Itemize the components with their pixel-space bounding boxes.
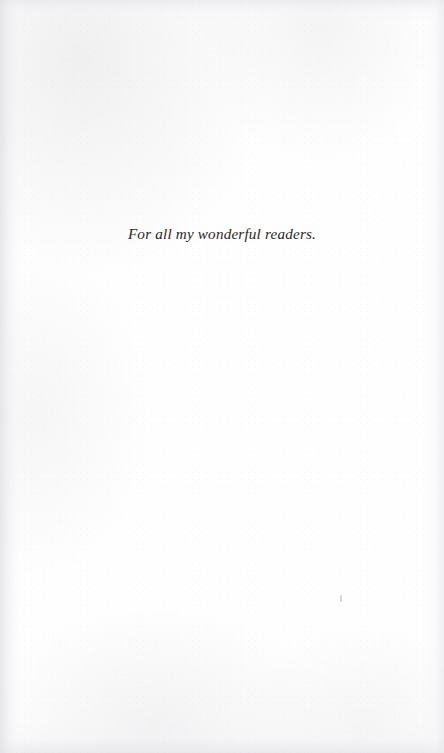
dedication-text: For all my wonderful readers. [128,224,316,244]
scan-speck-artifact [340,595,342,602]
scan-edge-shadow-right [422,0,444,753]
scan-edge-shadow-top [0,0,444,22]
dedication-block: For all my wonderful readers. [0,224,444,244]
scan-gutter-shadow-left [0,0,26,753]
scan-edge-shadow-bottom [0,723,444,753]
paper-grain-texture [0,0,444,753]
book-page: For all my wonderful readers. [0,0,444,753]
